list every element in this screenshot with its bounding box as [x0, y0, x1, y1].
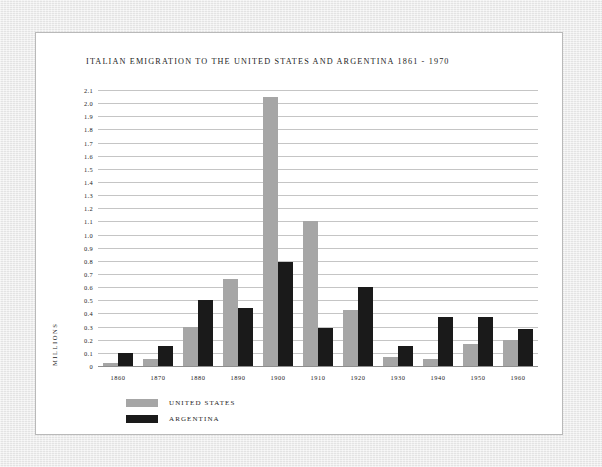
x-tick-label: 1910 — [311, 374, 326, 381]
bars-layer: 1860187018801890190019101920193019401950… — [98, 90, 538, 366]
chart-card: ITALIAN EMIGRATION TO THE UNITED STATES … — [35, 32, 563, 435]
bar-group: 1860 — [98, 90, 138, 366]
bar-group: 1880 — [178, 90, 218, 366]
legend-label: ARGENTINA — [169, 415, 220, 423]
x-tick-label: 1930 — [391, 374, 406, 381]
y-tick-label: 1.7 — [84, 139, 93, 146]
bar-argentina — [278, 262, 293, 366]
x-tick-label: 1860 — [111, 374, 126, 381]
y-tick-label: 0.6 — [84, 284, 93, 291]
bar-united-states — [423, 359, 438, 366]
y-tick-label: 0.5 — [84, 297, 93, 304]
y-tick-label: 1.6 — [84, 152, 93, 159]
bar-group: 1950 — [458, 90, 498, 366]
x-tick-label: 1920 — [351, 374, 366, 381]
y-tick-label: 0.7 — [84, 271, 93, 278]
y-tick-label: 1.1 — [84, 218, 93, 225]
bar-group: 1900 — [258, 90, 298, 366]
legend-swatch-united-states — [126, 399, 158, 407]
x-tick-label: 1880 — [191, 374, 206, 381]
bar-argentina — [358, 287, 373, 366]
gridline — [98, 366, 538, 367]
y-axis-title: MILLIONS — [51, 322, 58, 366]
bar-argentina — [318, 328, 333, 366]
bar-argentina — [478, 317, 493, 366]
legend-swatch-argentina — [126, 415, 158, 423]
x-tick-label: 1870 — [151, 374, 166, 381]
y-tick-label: 0.3 — [84, 323, 93, 330]
bar-united-states — [223, 279, 238, 366]
bar-united-states — [463, 344, 478, 366]
y-tick-label: 0.2 — [84, 336, 93, 343]
x-tick-label: 1940 — [431, 374, 446, 381]
y-tick-label: 0.8 — [84, 257, 93, 264]
y-tick-label: 1.4 — [84, 179, 93, 186]
x-tick-label: 1950 — [471, 374, 486, 381]
y-tick-label: 0.1 — [84, 349, 93, 356]
x-tick-label: 1960 — [511, 374, 526, 381]
bar-argentina — [198, 300, 213, 366]
bar-argentina — [438, 317, 453, 366]
legend-item: ARGENTINA — [126, 412, 235, 425]
bar-united-states — [143, 359, 158, 366]
bar-united-states — [183, 327, 198, 366]
chart-title: ITALIAN EMIGRATION TO THE UNITED STATES … — [86, 57, 450, 66]
y-tick-label: 2.0 — [84, 100, 93, 107]
bar-argentina — [158, 346, 173, 366]
y-tick-label: 2.1 — [84, 87, 93, 94]
y-tick-label: 0 — [89, 363, 93, 370]
bar-argentina — [518, 329, 533, 366]
bar-united-states — [343, 310, 358, 367]
bar-united-states — [303, 221, 318, 366]
y-tick-label: 1.3 — [84, 192, 93, 199]
bar-united-states — [503, 340, 518, 366]
y-tick-label: 1.9 — [84, 113, 93, 120]
y-tick-label: 1.2 — [84, 205, 93, 212]
plot-area: MILLIONS 2.12.01.91.81.71.61.51.41.31.21… — [98, 90, 538, 366]
bar-group: 1960 — [498, 90, 538, 366]
bar-argentina — [118, 353, 133, 366]
legend-item: UNITED STATES — [126, 396, 235, 409]
y-tick-label: 0.4 — [84, 310, 93, 317]
bar-argentina — [238, 308, 253, 366]
bar-group: 1920 — [338, 90, 378, 366]
bar-group: 1890 — [218, 90, 258, 366]
bar-united-states — [263, 97, 278, 366]
y-tick-label: 1.8 — [84, 126, 93, 133]
bar-group: 1930 — [378, 90, 418, 366]
bar-argentina — [398, 346, 413, 366]
bar-united-states — [103, 363, 118, 366]
y-tick-label: 1.5 — [84, 165, 93, 172]
bar-group: 1910 — [298, 90, 338, 366]
bar-group: 1870 — [138, 90, 178, 366]
y-tick-label: 1.0 — [84, 231, 93, 238]
legend-label: UNITED STATES — [169, 399, 235, 407]
x-tick-label: 1890 — [231, 374, 246, 381]
bar-united-states — [383, 357, 398, 366]
x-tick-label: 1900 — [271, 374, 286, 381]
bar-group: 1940 — [418, 90, 458, 366]
y-tick-label: 0.9 — [84, 244, 93, 251]
chart-legend: UNITED STATESARGENTINA — [126, 396, 235, 428]
